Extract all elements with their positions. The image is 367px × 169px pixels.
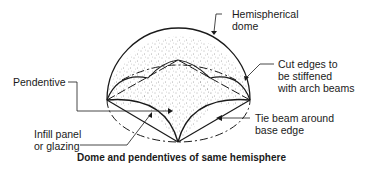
label-pendentive: Pendentive — [13, 76, 66, 88]
figure-caption: Dome and pendentives of same hemisphere — [77, 152, 286, 163]
leader-cut-edges — [246, 64, 274, 78]
label-infill-panel: Infill panel or glazing — [34, 128, 81, 152]
leader-hemispherical-dome — [214, 14, 222, 32]
label-cut-edges: Cut edges to be stiffened with arch beam… — [278, 58, 354, 94]
label-tie-beam: Tie beam around base edge — [255, 112, 334, 136]
label-hemispherical-dome: Hemispherical dome — [232, 8, 299, 32]
dome-pendentive-diagram: Hemispherical dome Cut edges to be stiff… — [0, 0, 367, 169]
